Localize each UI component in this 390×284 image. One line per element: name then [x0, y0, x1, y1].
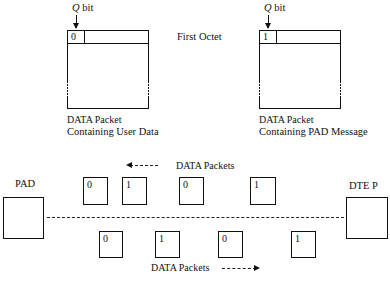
q-italic: Q: [264, 2, 272, 13]
first-octet-label: First Octet: [177, 31, 222, 42]
packet-lower-3: 0: [218, 231, 243, 258]
pad-label: PAD: [15, 178, 35, 189]
break-mark: [65, 83, 69, 97]
break-mark: [147, 83, 151, 97]
right-arrow-icon: [222, 268, 256, 269]
packet-upper-2: 1: [122, 177, 147, 205]
lower-flow-label: DATA Packets: [151, 262, 209, 273]
caption-line1-right: DATA Packet: [259, 114, 313, 125]
packet-upper-3: 0: [179, 177, 204, 205]
dte-label: DTE P: [349, 180, 378, 191]
pad-node: [3, 197, 44, 239]
packet-upper-1: 0: [83, 177, 108, 205]
down-arrow-icon: [268, 15, 269, 28]
caption-line1-left: DATA Packet: [67, 114, 121, 125]
q-bit-text: bit: [80, 2, 94, 13]
caption-line2-left: Containing User Data: [67, 126, 159, 137]
caption-line2-right: Containing PAD Message: [259, 126, 368, 137]
data-packet-pad-message: 1: [259, 30, 341, 109]
link-line: [47, 217, 344, 218]
left-arrow-icon: [130, 165, 158, 166]
q-italic: Q: [72, 2, 80, 13]
q-bit-cell: 0: [68, 31, 85, 43]
break-mark: [257, 83, 261, 97]
q-bit-cell: 1: [260, 31, 277, 43]
q-bit-text: bit: [272, 2, 286, 13]
dte-node: [346, 197, 388, 239]
packet-upper-4: 1: [250, 177, 276, 205]
packet-lower-2: 1: [155, 231, 180, 258]
data-packet-user-data: 0: [67, 30, 149, 109]
down-arrow-icon: [76, 15, 77, 28]
q-bit-label-right: Q bit: [264, 2, 285, 13]
break-mark: [339, 83, 343, 97]
upper-flow-label: DATA Packets: [176, 160, 234, 171]
packet-lower-4: 1: [291, 231, 316, 258]
packet-lower-1: 0: [99, 231, 123, 258]
q-bit-label-left: Q bit: [72, 2, 93, 13]
